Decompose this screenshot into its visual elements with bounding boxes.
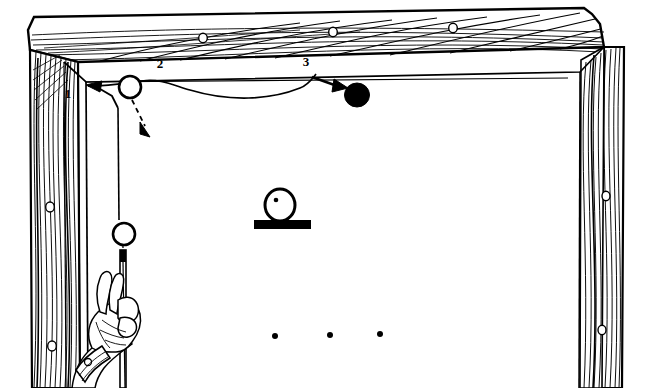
knot-hole-icon	[602, 191, 610, 201]
knot-hole-icon	[598, 325, 606, 335]
knot-hole-icon	[329, 27, 338, 37]
dot-3	[377, 331, 383, 337]
knot-hole-icon	[46, 202, 55, 212]
step-label-2: 2	[157, 56, 164, 71]
right-post	[580, 47, 624, 388]
step-label-3: 3	[303, 54, 310, 69]
pedestal-ball	[265, 189, 295, 221]
figure-root: 1 2 3	[0, 0, 647, 388]
knot-hole-icon	[199, 33, 208, 43]
left-post	[30, 50, 80, 388]
line-art-illustration: 1 2 3	[0, 0, 647, 388]
open-ring-upper	[119, 76, 141, 98]
dot-2	[327, 332, 333, 338]
pedestal-base	[254, 220, 311, 229]
step-label-1: 1	[65, 86, 72, 101]
knot-hole-icon	[449, 23, 458, 33]
pedestal-ball-dot	[274, 198, 279, 203]
knot-hole-icon	[48, 341, 57, 351]
open-ring-lower	[113, 223, 135, 245]
dot-1	[272, 333, 278, 339]
black-ball	[345, 83, 370, 107]
